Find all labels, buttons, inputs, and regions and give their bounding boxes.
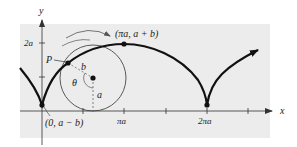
cycloid-diagram: x y 2a πa 2πa P b θ a (πa, a + b) (0, a … — [0, 0, 297, 147]
y-axis-label: y — [38, 5, 44, 16]
circle-center — [90, 75, 95, 80]
label-p: P — [45, 54, 52, 65]
point-start — [39, 102, 44, 107]
point-top — [121, 41, 126, 46]
x-axis-label: x — [279, 105, 285, 116]
label-top-point: (πa, a + b) — [115, 28, 159, 40]
point-p — [65, 60, 70, 65]
label-a: a — [97, 89, 102, 100]
point-cusp-2pi — [204, 102, 209, 107]
x-tick-label-pi-a: πa — [117, 116, 127, 126]
label-b: b — [81, 61, 86, 72]
label-start-point: (0, a − b) — [45, 117, 84, 129]
y-tick-label-2a: 2a — [24, 38, 34, 48]
label-theta: θ — [72, 77, 77, 88]
x-tick-label-2pi-a: 2πa — [198, 116, 212, 126]
